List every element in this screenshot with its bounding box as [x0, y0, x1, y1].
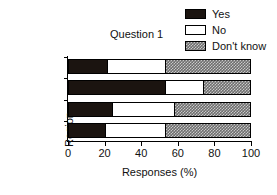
- legend-item-dont-know: Don't know: [185, 39, 277, 53]
- legend-label-dont-know: Don't know: [212, 41, 266, 52]
- x-tick-mark-80: [214, 141, 215, 146]
- x-tick-mark-100: [251, 141, 252, 146]
- legend-label-no: No: [212, 25, 226, 36]
- bar-segment-north-don-t-know: [165, 124, 250, 137]
- x-tick-label-100: 100: [242, 148, 260, 159]
- legend-swatch-no-icon: [185, 25, 206, 35]
- bar-segment-east-yes: [69, 81, 165, 94]
- bar-segment-west-no: [107, 60, 165, 73]
- x-tick-label-0: 0: [65, 148, 71, 159]
- stacked-bar-chart: Yes No Don't know Question 1 Region West…: [0, 0, 277, 195]
- x-tick-mark-0: [68, 141, 69, 146]
- chart-title: Question 1: [110, 28, 163, 40]
- plot-area: Region WestEastSouthNorth 020406080100 R…: [67, 56, 251, 142]
- bar-segment-north-no: [105, 124, 165, 137]
- bar-segment-south-yes: [69, 103, 112, 116]
- legend-swatch-yes-icon: [185, 9, 206, 19]
- bar-row-north: [68, 123, 251, 138]
- legend-swatch-dont-know-icon: [185, 41, 206, 51]
- bar-row-west: [68, 59, 251, 74]
- bar-row-east: [68, 80, 251, 95]
- x-tick-label-80: 80: [208, 148, 220, 159]
- bar-segment-north-yes: [69, 124, 105, 137]
- bar-segment-east-don-t-know: [203, 81, 250, 94]
- bar-segment-south-don-t-know: [174, 103, 250, 116]
- legend-label-yes: Yes: [212, 9, 230, 20]
- y-tick-mark-south: [64, 100, 68, 101]
- chart-legend: Yes No Don't know: [185, 7, 277, 55]
- y-tick-mark-north: [64, 121, 68, 122]
- x-tick-mark-20: [105, 141, 106, 146]
- x-tick-mark-60: [178, 141, 179, 146]
- bar-segment-south-no: [112, 103, 174, 116]
- x-tick-label-40: 40: [135, 148, 147, 159]
- bar-segment-east-no: [165, 81, 203, 94]
- bar-row-south: [68, 102, 251, 117]
- x-tick-mark-40: [141, 141, 142, 146]
- y-tick-mark-east: [64, 78, 68, 79]
- bar-segment-west-don-t-know: [165, 60, 250, 73]
- x-axis-title: Responses (%): [68, 166, 251, 178]
- y-tick-mark-west: [64, 57, 68, 58]
- x-tick-label-20: 20: [98, 148, 110, 159]
- legend-item-no: No: [185, 23, 277, 37]
- legend-item-yes: Yes: [185, 7, 277, 21]
- bar-segment-west-yes: [69, 60, 107, 73]
- x-tick-label-60: 60: [172, 148, 184, 159]
